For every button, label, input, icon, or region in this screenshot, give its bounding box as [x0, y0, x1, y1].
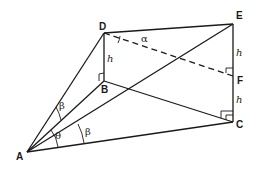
label-h-DB: h — [107, 53, 113, 64]
point-label-A: A — [16, 151, 23, 162]
segment-BC — [104, 81, 233, 122]
geometry-diagram: D E B F C A h h h α β β θ — [0, 0, 257, 169]
right-angle-mark-F — [226, 68, 233, 73]
right-angle-mark-C-outer — [221, 111, 233, 118]
label-alpha: α — [141, 33, 148, 44]
angle-arc-beta-lower — [78, 124, 84, 143]
label-h-FC: h — [236, 94, 242, 105]
segment-DF-dashed — [104, 33, 233, 76]
point-label-D: D — [99, 21, 106, 32]
right-angle-mark-C-inner — [226, 115, 233, 120]
label-beta-lower: β — [85, 126, 91, 137]
angle-arc-alpha — [118, 36, 120, 43]
label-beta-upper: β — [59, 100, 65, 111]
label-theta: θ — [55, 130, 61, 141]
right-angle-mark-B — [99, 73, 104, 81]
point-label-F: F — [237, 75, 243, 86]
point-label-B: B — [101, 84, 108, 95]
point-label-E: E — [236, 10, 243, 21]
segment-DE — [104, 24, 233, 33]
label-h-EF: h — [236, 47, 242, 58]
point-label-C: C — [236, 119, 243, 130]
